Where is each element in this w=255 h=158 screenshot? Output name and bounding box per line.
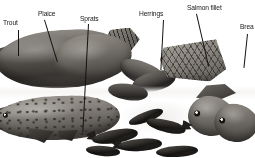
- specimen-photo-layer: [0, 0, 255, 158]
- label-bream: Brea: [240, 23, 254, 31]
- trout-eye: [3, 113, 8, 118]
- label-trout: Trout: [3, 19, 18, 27]
- leader-line-trout: [18, 30, 19, 56]
- label-sprats: Sprats: [80, 15, 99, 23]
- specimen-salmon-fillet: [159, 39, 226, 83]
- specimen-sprat-5: [156, 145, 199, 158]
- bream-a-eye: [194, 110, 201, 117]
- label-herrings: Herrings: [139, 10, 163, 18]
- bream-b-eye: [219, 117, 226, 124]
- label-salmon-fillet: Salmon fillet: [187, 4, 222, 12]
- label-plaice: Plaice: [38, 10, 55, 18]
- fish-varieties-plate: Trout Plaice Sprats Herrings Salmon fill…: [0, 0, 255, 158]
